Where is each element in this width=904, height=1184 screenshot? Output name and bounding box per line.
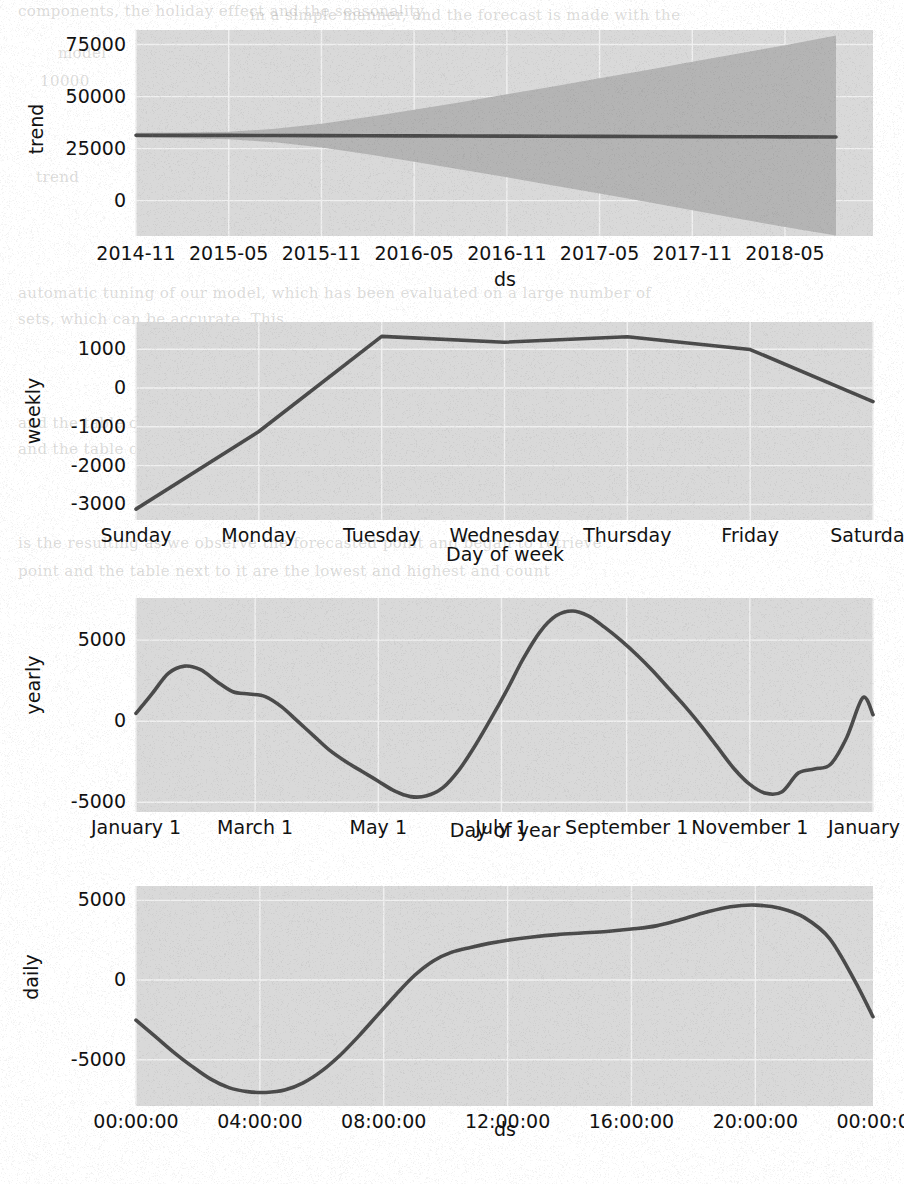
yearly-y-tick: -5000 bbox=[0, 790, 126, 812]
weekly-y-tick: 1000 bbox=[0, 337, 126, 359]
trend-x-axis-label: ds bbox=[136, 268, 874, 290]
daily-panel: daily ds -50000500000:00:0004:00:0008:00… bbox=[0, 862, 904, 1152]
trend-y-tick: 25000 bbox=[0, 137, 126, 159]
yearly-y-tick: 5000 bbox=[0, 628, 126, 650]
weekly-y-tick: -2000 bbox=[0, 454, 126, 476]
daily-y-tick: -5000 bbox=[0, 1048, 126, 1070]
weekly-panel: weekly Day of week -3000-2000-100001000S… bbox=[0, 300, 904, 570]
weekly-x-axis-label: Day of week bbox=[136, 543, 874, 565]
trend-x-tick: 2018-05 bbox=[710, 242, 860, 264]
yearly-plot-background bbox=[136, 598, 873, 812]
yearly-plot-svg bbox=[0, 576, 904, 852]
trend-series-line bbox=[136, 135, 836, 137]
daily-y-tick: 5000 bbox=[0, 888, 126, 910]
yearly-panel: yearly Day of year -500005000January 1Ma… bbox=[0, 576, 904, 852]
trend-panel: trend ds 02500050000750002014-112015-052… bbox=[0, 0, 904, 296]
weekly-y-tick: -1000 bbox=[0, 415, 126, 437]
yearly-x-tick: January 1 bbox=[798, 816, 904, 838]
yearly-y-tick: 0 bbox=[0, 709, 126, 731]
trend-y-tick: 0 bbox=[0, 189, 126, 211]
daily-x-tick: 00:00:00 bbox=[804, 1110, 904, 1132]
daily-plot-svg bbox=[0, 862, 904, 1152]
trend-y-tick: 50000 bbox=[0, 85, 126, 107]
daily-plot-background bbox=[136, 886, 873, 1106]
daily-y-tick: 0 bbox=[0, 968, 126, 990]
weekly-x-tick: Saturday bbox=[798, 524, 904, 546]
weekly-y-tick: 0 bbox=[0, 376, 126, 398]
weekly-y-tick: -3000 bbox=[0, 492, 126, 514]
trend-y-tick: 75000 bbox=[0, 33, 126, 55]
